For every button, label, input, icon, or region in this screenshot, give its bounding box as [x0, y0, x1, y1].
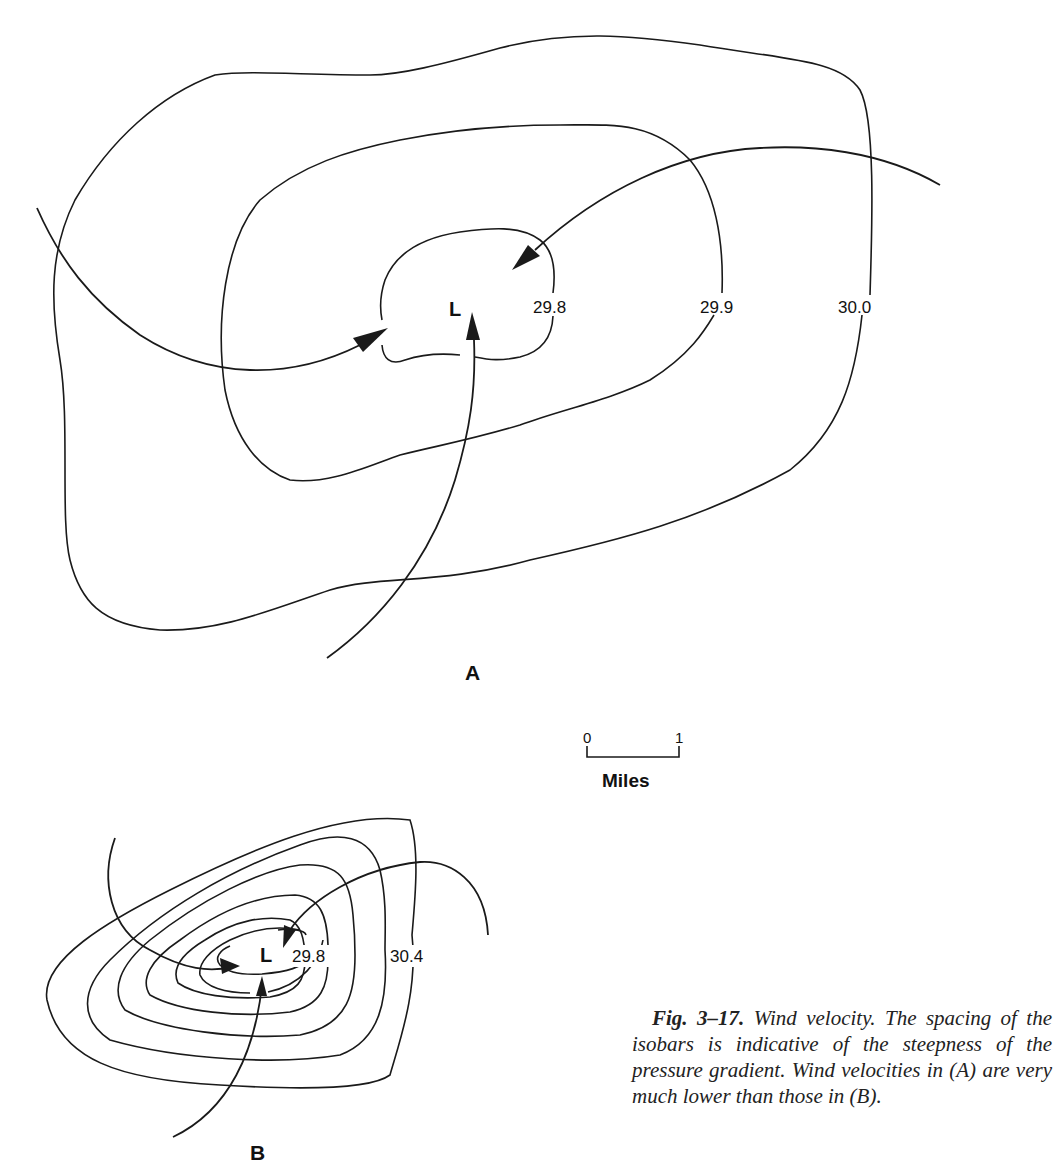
isobar-label-30-0: 30.0 [838, 298, 871, 317]
isobar-30-0 [54, 36, 872, 630]
panel-b: L 29.8 30.4 B [47, 818, 488, 1164]
scale-unit-label: Miles [602, 770, 650, 791]
low-pressure-center-a: L [449, 298, 461, 320]
isobar-label-29-8: 29.8 [533, 298, 566, 317]
scale-bar: 0 1 Miles [583, 729, 683, 791]
panel-label-b: B [250, 1141, 265, 1164]
arrowhead-icon [256, 976, 267, 996]
low-pressure-center-b: L [260, 944, 272, 966]
wind-arrow-south [327, 340, 474, 658]
isobar-b-2 [88, 837, 386, 1060]
figure-caption: Fig. 3–17. Wind velocity. The spacing of… [632, 1005, 1052, 1109]
isobar-label-29-9: 29.9 [700, 298, 733, 317]
wind-arrow-northeast [535, 147, 940, 250]
wind-velocity-figure: L 29.8 29.9 30.0 A 0 1 Miles L 29.8 [0, 0, 1057, 1166]
panel-label-a: A [465, 661, 480, 684]
isobar-29-8 [381, 229, 554, 320]
isobar-label-30-4-b: 30.4 [390, 947, 423, 966]
isobar-b-1 [47, 818, 416, 1088]
scale-end-label: 1 [675, 729, 683, 746]
panel-a: L 29.8 29.9 30.0 A [37, 36, 940, 684]
isobar-label-29-8-b: 29.8 [292, 947, 325, 966]
wind-arrow-northeast-b [290, 862, 488, 935]
isobar-29-9 [221, 125, 722, 481]
scale-line [587, 746, 679, 757]
wind-arrow-west [37, 208, 360, 370]
scale-start-label: 0 [583, 729, 591, 746]
arrowhead-icon [466, 312, 480, 340]
figure-number: Fig. 3–17. [652, 1006, 744, 1030]
